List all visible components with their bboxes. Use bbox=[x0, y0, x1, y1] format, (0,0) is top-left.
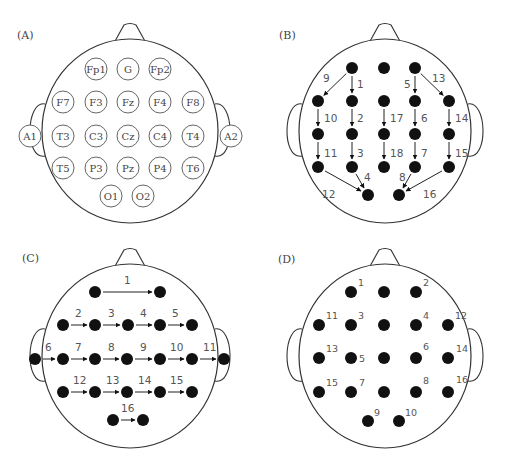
electrode-dot bbox=[346, 128, 358, 140]
electrode-dot bbox=[186, 353, 198, 365]
electrode-dot bbox=[121, 353, 133, 365]
electrode-dot bbox=[154, 386, 166, 398]
electrode-label: Fp2 bbox=[150, 64, 170, 75]
channel-number: 8 bbox=[423, 375, 429, 386]
electrode-dot bbox=[107, 414, 119, 426]
electrode-dot bbox=[57, 319, 69, 331]
electrode-dot bbox=[409, 161, 421, 173]
channel-number: 4 bbox=[364, 171, 371, 183]
channel-number: 14 bbox=[455, 112, 469, 124]
electrode-dot bbox=[443, 161, 455, 173]
electrode-label: F3 bbox=[89, 97, 102, 108]
channel-number: 10 bbox=[324, 112, 337, 124]
electrode-label: G bbox=[124, 64, 132, 75]
electrode-label: T4 bbox=[186, 131, 199, 142]
channel-number: 7 bbox=[359, 377, 365, 388]
electrode-dot bbox=[154, 319, 166, 331]
panel-b-longitudinal-montage: (B)123456789101112131415161718 bbox=[279, 24, 483, 224]
channel-number: 3 bbox=[357, 147, 364, 159]
electrode-dot bbox=[346, 95, 358, 107]
electrode-dot bbox=[442, 352, 454, 364]
electrode-dot bbox=[410, 319, 422, 331]
electrode-dot bbox=[89, 386, 101, 398]
electrode-dot bbox=[89, 286, 101, 298]
channel-number: 13 bbox=[432, 72, 445, 84]
electrode-dot bbox=[312, 161, 324, 173]
electrode-f3: F3 bbox=[85, 91, 107, 113]
channel-number: 2 bbox=[357, 112, 364, 124]
channel-number: 10 bbox=[170, 341, 183, 353]
electrode-label: F7 bbox=[56, 97, 69, 108]
channel-number: 9 bbox=[140, 341, 147, 353]
electrode-g: G bbox=[117, 58, 139, 80]
channel-number: 3 bbox=[108, 307, 115, 319]
electrode-dot bbox=[57, 386, 69, 398]
channel-number: 18 bbox=[390, 147, 403, 159]
channel-number: 15 bbox=[170, 374, 183, 386]
electrode-f7: F7 bbox=[52, 91, 74, 113]
channel-number: 15 bbox=[326, 377, 338, 388]
electrode-dot bbox=[312, 95, 324, 107]
electrode-c3: C3 bbox=[85, 125, 107, 147]
electrode-label: A1 bbox=[22, 131, 37, 142]
electrode-dot bbox=[378, 128, 390, 140]
panel-label: (D) bbox=[278, 253, 295, 266]
channel-number: 1 bbox=[357, 78, 364, 90]
electrode-dot bbox=[57, 353, 69, 365]
panel-label: (B) bbox=[279, 29, 296, 42]
electrode-dot bbox=[218, 353, 230, 365]
channel-number: 5 bbox=[359, 353, 365, 364]
electrode-dot bbox=[409, 95, 421, 107]
channel-number: 16 bbox=[121, 402, 135, 414]
electrode-a1: A1 bbox=[19, 125, 41, 147]
electrode-dot bbox=[442, 386, 454, 398]
electrode-o2: O2 bbox=[132, 185, 154, 207]
electrode-dot bbox=[378, 62, 390, 74]
channel-number: 6 bbox=[45, 341, 52, 353]
panel-d-channel-numbering: (D)12113412135614157816910 bbox=[278, 249, 483, 449]
channel-number: 11 bbox=[326, 310, 338, 321]
electrode-dot bbox=[378, 319, 390, 331]
figure-canvas: (A)Fp1GFp2F7F3FzF4F8A1T3C3CzC4T4A2T5P3Pz… bbox=[0, 0, 506, 460]
electrode-p3: P3 bbox=[85, 157, 107, 179]
channel-number: 13 bbox=[106, 374, 119, 386]
electrode-dot bbox=[89, 353, 101, 365]
electrode-label: Fz bbox=[122, 97, 134, 108]
electrode-dot bbox=[410, 386, 422, 398]
electrode-dot bbox=[378, 286, 390, 298]
channel-number: 16 bbox=[456, 374, 468, 385]
electrode-dot bbox=[393, 189, 405, 201]
electrode-label: Fp1 bbox=[86, 64, 106, 75]
channel-number: 1 bbox=[358, 277, 364, 288]
electrode-dot bbox=[393, 415, 405, 427]
electrode-f8: F8 bbox=[182, 91, 204, 113]
channel-number: 4 bbox=[140, 307, 147, 319]
channel-number: 9 bbox=[374, 407, 380, 418]
electrode-c4: C4 bbox=[149, 125, 171, 147]
electrode-dot bbox=[121, 386, 133, 398]
electrode-dot bbox=[410, 286, 422, 298]
electrode-dot bbox=[378, 386, 390, 398]
channel-number: 14 bbox=[138, 374, 152, 386]
channel-number: 2 bbox=[75, 307, 82, 319]
electrode-dot bbox=[313, 319, 325, 331]
electrode-dot bbox=[362, 189, 374, 201]
electrode-dot bbox=[312, 128, 324, 140]
electrode-f4: F4 bbox=[149, 91, 171, 113]
electrode-label: F4 bbox=[153, 97, 166, 108]
electrode-dot bbox=[154, 286, 166, 298]
channel-number: 12 bbox=[322, 188, 335, 200]
channel-number: 8 bbox=[108, 341, 115, 353]
channel-number: 5 bbox=[404, 78, 411, 90]
electrode-label: T6 bbox=[186, 163, 199, 174]
electrode-fp2: Fp2 bbox=[149, 58, 171, 80]
electrode-dot bbox=[362, 415, 374, 427]
channel-number: 2 bbox=[423, 277, 429, 288]
electrode-a2: A2 bbox=[220, 125, 242, 147]
electrode-dot bbox=[29, 353, 41, 365]
electrode-dot bbox=[443, 128, 455, 140]
electrode-dot bbox=[313, 352, 325, 364]
electrode-dot bbox=[409, 62, 421, 74]
panel-label: (A) bbox=[17, 29, 34, 42]
channel-number: 11 bbox=[203, 341, 216, 353]
